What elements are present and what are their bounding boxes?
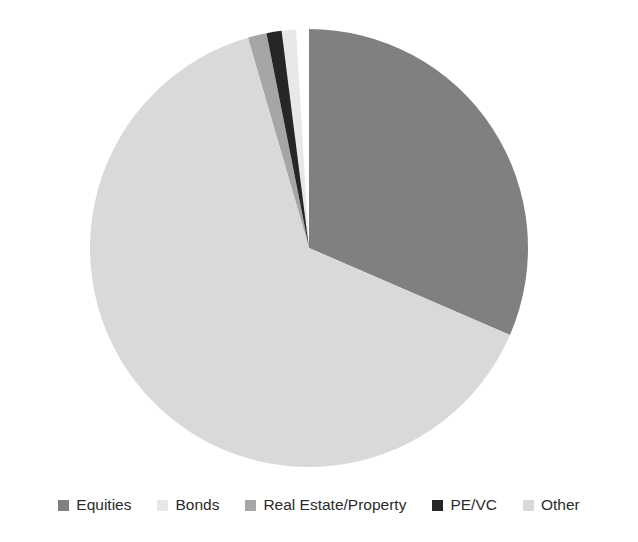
legend-swatch-icon [432,500,443,511]
legend-item[interactable]: PE/VC [432,497,497,513]
pie-slice-group [90,29,528,467]
legend-item[interactable]: Other [523,497,580,513]
legend-item-label: Equities [76,497,131,513]
pie-chart: EquitiesBondsReal Estate/PropertyPE/VCOt… [0,0,638,542]
legend-item-label: PE/VC [450,497,497,513]
legend-item[interactable]: Equities [58,497,131,513]
legend-item-label: Real Estate/Property [263,497,406,513]
pie-plot-area [0,0,638,480]
legend-item-label: Bonds [175,497,219,513]
legend-item-label: Other [541,497,580,513]
legend-swatch-icon [523,500,534,511]
legend-item[interactable]: Real Estate/Property [245,497,406,513]
pie-svg [0,0,638,480]
legend-swatch-icon [58,500,69,511]
legend-swatch-icon [157,500,168,511]
legend-item[interactable]: Bonds [157,497,219,513]
legend-swatch-icon [245,500,256,511]
chart-legend: EquitiesBondsReal Estate/PropertyPE/VCOt… [0,488,638,522]
